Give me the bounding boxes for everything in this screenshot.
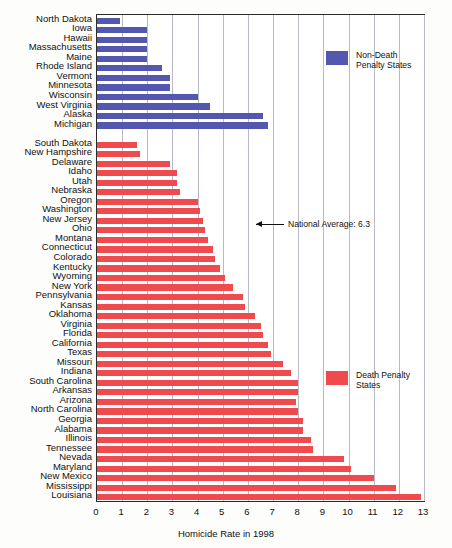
legend-label-death-penalty: Death Penalty States: [356, 370, 410, 390]
bar-arkansas: [97, 389, 298, 395]
bar-row: [97, 113, 424, 119]
x-axis-ticks: 012345678910111213: [0, 506, 452, 520]
bar-row: [97, 332, 424, 338]
bar-kentucky: [97, 265, 220, 271]
x-tick-8: 8: [295, 506, 300, 517]
bar-vermont: [97, 75, 170, 81]
bar-row: [97, 361, 424, 367]
bar-montana: [97, 237, 208, 243]
bar-colorado: [97, 256, 215, 262]
bar-alabama: [97, 427, 303, 433]
bar-nevada: [97, 456, 344, 462]
bar-louisiana: [97, 494, 421, 500]
bar-row: [97, 485, 424, 491]
bar-texas: [97, 351, 271, 357]
bar-row: [97, 427, 424, 433]
legend-label-line1: Death Penalty: [356, 370, 410, 380]
bar-oklahoma: [97, 313, 255, 319]
bar-wisconsin: [97, 94, 198, 100]
bar-row: [97, 494, 424, 500]
bar-row: [97, 408, 424, 414]
legend-swatch-death-penalty: [326, 371, 348, 385]
bar-row: [97, 313, 424, 319]
bar-row: [97, 275, 424, 281]
bar-row: [97, 456, 424, 462]
bar-row: [97, 475, 424, 481]
x-tick-1: 1: [118, 506, 123, 517]
x-axis-title: Homicide Rate in 1998: [0, 528, 452, 539]
bar-arizona: [97, 399, 296, 405]
bar-oregon: [97, 199, 198, 205]
bar-virginia: [97, 323, 261, 329]
legend-label-line2: Penalty States: [356, 60, 411, 70]
bar-maine: [97, 56, 147, 62]
bar-new-york: [97, 284, 233, 290]
bar-row: [97, 189, 424, 195]
bar-row: [97, 418, 424, 424]
legend-label-non-death-penalty: Non-Death Penalty States: [356, 50, 411, 70]
bar-delaware: [97, 161, 170, 167]
bar-georgia: [97, 418, 303, 424]
bar-row: [97, 389, 424, 395]
bar-row: [97, 75, 424, 81]
legend-label-line1: Non-Death: [356, 50, 398, 60]
bar-mississippi: [97, 485, 396, 491]
state-labels-column: North DakotaIowaHawaiiMassachusettsMaine…: [0, 14, 92, 502]
bar-row: [97, 122, 424, 128]
bar-alaska: [97, 113, 263, 119]
bar-michigan: [97, 122, 268, 128]
legend-swatch-non-death-penalty: [326, 51, 348, 65]
national-average-label: National Average: 6.3: [288, 219, 370, 229]
bar-row: [97, 437, 424, 443]
bar-missouri: [97, 361, 283, 367]
bar-row: [97, 466, 424, 472]
bar-row: [97, 227, 424, 233]
bar-pennsylvania: [97, 294, 243, 300]
bar-row: [97, 323, 424, 329]
bar-row: [97, 180, 424, 186]
bar-nebraska: [97, 189, 180, 195]
bar-row: [97, 284, 424, 290]
bar-washington: [97, 208, 200, 214]
bar-california: [97, 342, 268, 348]
gridline-13: [424, 15, 425, 501]
bar-row: [97, 294, 424, 300]
bar-south-dakota: [97, 142, 137, 148]
bar-row: [97, 399, 424, 405]
homicide-rate-bar-chart: Non-Death Penalty States Death Penalty S…: [0, 0, 452, 548]
bar-iowa: [97, 27, 147, 33]
x-tick-6: 6: [244, 506, 249, 517]
plot-area: Non-Death Penalty States Death Penalty S…: [96, 14, 425, 502]
bar-new-mexico: [97, 475, 374, 481]
x-tick-0: 0: [93, 506, 98, 517]
bar-row: [97, 170, 424, 176]
x-tick-10: 10: [342, 506, 353, 517]
bar-row: [97, 351, 424, 357]
bar-idaho: [97, 170, 177, 176]
x-tick-11: 11: [368, 506, 378, 517]
x-tick-9: 9: [320, 506, 325, 517]
state-label-michigan: Michigan: [2, 119, 92, 129]
bar-row: [97, 237, 424, 243]
bar-row: [97, 37, 424, 43]
x-tick-5: 5: [219, 506, 224, 517]
x-tick-4: 4: [194, 506, 199, 517]
bar-florida: [97, 332, 263, 338]
bar-row: [97, 342, 424, 348]
bar-hawaii: [97, 37, 147, 43]
bar-row: [97, 246, 424, 252]
bar-massachusetts: [97, 46, 147, 52]
bar-rhode-island: [97, 65, 162, 71]
bar-new-jersey: [97, 218, 203, 224]
bar-row: [97, 256, 424, 262]
bar-row: [97, 265, 424, 271]
x-tick-2: 2: [144, 506, 149, 517]
bar-row: [97, 18, 424, 24]
bar-wyoming: [97, 275, 225, 281]
bar-row: [97, 151, 424, 157]
bar-row: [97, 304, 424, 310]
bar-row: [97, 208, 424, 214]
bar-illinois: [97, 437, 311, 443]
bar-minnesota: [97, 84, 170, 90]
x-tick-7: 7: [269, 506, 274, 517]
